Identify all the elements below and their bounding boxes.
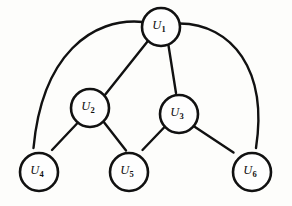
node-u6-label-subscript: 6	[252, 169, 256, 179]
edge-u2-u4	[0, 0, 78, 150]
graph-canvas: U1 U2 U3 U4	[0, 0, 292, 206]
node-u2-label-subscript: 2	[90, 105, 94, 115]
edge-u1-u3-line	[169, 46, 177, 94]
node-layer: U1 U2 U3 U4	[20, 8, 271, 191]
graph-diagram: U1 U2 U3 U4	[0, 0, 292, 206]
edge-u2-u5	[0, 0, 126, 150]
edge-u2-u5-line	[103, 121, 126, 151]
node-u1[interactable]: U1	[142, 8, 180, 46]
node-u5[interactable]: U5	[110, 153, 148, 191]
node-u1-label-subscript: 1	[161, 24, 165, 34]
node-u6[interactable]: U6	[233, 153, 271, 191]
node-u3-label-subscript: 3	[179, 111, 183, 121]
edge-u3-u5-line	[143, 127, 166, 151]
node-u3[interactable]: U3	[160, 95, 198, 133]
node-u4[interactable]: U4	[20, 153, 58, 191]
node-u2[interactable]: U2	[71, 89, 109, 127]
edge-u1-u4-curve	[34, 22, 144, 148]
edge-u2-u4-line	[52, 123, 78, 151]
node-u5-label-subscript: 5	[129, 169, 133, 179]
edge-u3-u6-line	[194, 126, 234, 153]
edge-u1-u2-line	[105, 42, 148, 96]
edge-layer	[0, 0, 258, 152]
